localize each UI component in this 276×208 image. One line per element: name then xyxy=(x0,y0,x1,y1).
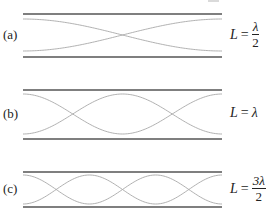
panel-label-c: (c) xyxy=(3,181,17,197)
fraction-denominator: 2 xyxy=(252,35,259,49)
wave-curve-lower xyxy=(23,94,222,134)
equals-sign: = xyxy=(241,181,249,197)
fraction-numerator: 3λ xyxy=(252,174,266,189)
panel-label-b: (b) xyxy=(3,106,18,122)
equation-a: L=λ2 xyxy=(230,20,259,49)
wave-curve-upper xyxy=(23,94,222,134)
wave-curve-lower xyxy=(23,19,222,51)
equation-b: L=λ xyxy=(230,105,258,121)
panel-a xyxy=(23,14,222,57)
equation-c: L=3λ2 xyxy=(230,174,266,203)
equation-lhs: L xyxy=(230,105,238,121)
equals-sign: = xyxy=(241,105,249,121)
fraction: λ2 xyxy=(252,20,260,49)
fraction-numerator: λ xyxy=(252,20,260,35)
panel-label-a: (a) xyxy=(3,27,17,43)
wave-curve-lower xyxy=(23,175,222,204)
panel-c xyxy=(23,172,222,207)
fraction: 3λ2 xyxy=(252,174,266,203)
fraction-denominator: 2 xyxy=(256,189,263,203)
panel-b xyxy=(23,90,222,139)
equation-lhs: L xyxy=(230,27,238,43)
equals-sign: = xyxy=(241,27,249,43)
equation-rhs: λ xyxy=(252,105,258,121)
equation-lhs: L xyxy=(230,181,238,197)
